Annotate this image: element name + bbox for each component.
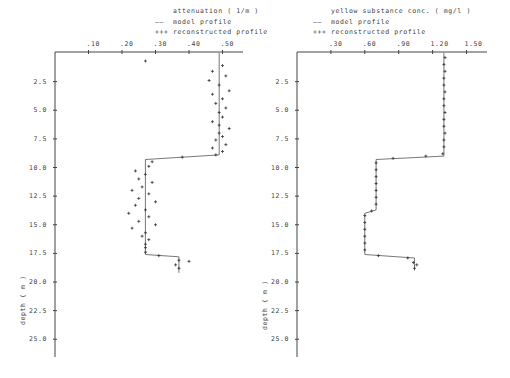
data-point [375, 189, 378, 192]
reconstructed-profile-points [127, 60, 231, 270]
data-point [147, 192, 150, 195]
data-point [144, 246, 147, 249]
data-point [141, 235, 144, 238]
data-point [442, 97, 445, 100]
data-point [218, 132, 221, 135]
y-tick-label: 22.5 [29, 307, 47, 315]
y-tick-label: 10.0 [29, 164, 47, 172]
legend: attenuation ( 1/m )——model profile+++rec… [155, 7, 268, 36]
data-point [218, 84, 221, 87]
data-point [147, 238, 150, 241]
x-tick-label: .10 [87, 40, 101, 48]
data-point [157, 254, 160, 257]
legend-symbol: +++ [313, 28, 327, 36]
data-point [141, 185, 144, 188]
data-point [214, 153, 217, 156]
data-point [211, 120, 214, 123]
x-tick-label: 1.50 [465, 40, 483, 48]
y-tick-label: 7.5 [33, 135, 47, 143]
chart-title: attenuation ( 1/m ) [173, 7, 259, 15]
model-profile-line [365, 53, 444, 271]
data-point [131, 227, 134, 230]
y-tick-label: 2.5 [33, 78, 47, 86]
legend-label: reconstructed profile [331, 28, 426, 36]
x-tick-label: .30 [154, 40, 168, 48]
x-tick-label: .60 [363, 40, 377, 48]
data-point [370, 210, 373, 213]
legend-symbol: —— [155, 18, 164, 26]
data-point [144, 231, 147, 234]
data-point [218, 124, 221, 127]
y-tick-label: 17.5 [29, 249, 47, 257]
data-point [151, 160, 154, 163]
y-tick-label: 22.5 [271, 307, 289, 315]
data-point [154, 223, 157, 226]
data-point [154, 200, 157, 203]
data-point [442, 125, 445, 128]
x-tick-label: .50 [221, 40, 235, 48]
data-point [147, 165, 150, 168]
data-point [375, 161, 378, 164]
data-point [211, 147, 214, 150]
data-point [147, 215, 150, 218]
data-point [144, 208, 147, 211]
data-point [211, 70, 214, 73]
data-point [442, 77, 445, 80]
y-tick-label: 17.5 [271, 249, 289, 257]
data-point [406, 256, 409, 259]
data-point [151, 181, 154, 184]
data-point [144, 173, 147, 176]
x-tick-label: .40 [187, 40, 201, 48]
attenuation-plot: attenuation ( 1/m )——model profile+++rec… [19, 7, 268, 357]
data-point [221, 150, 224, 153]
data-point [442, 118, 445, 121]
data-point [363, 221, 366, 224]
reconstructed-profile-points [363, 56, 446, 270]
figure-canvas: attenuation ( 1/m )——model profile+++rec… [0, 0, 510, 378]
data-point [442, 139, 445, 142]
data-point [144, 243, 147, 246]
data-point [228, 127, 231, 130]
data-point [214, 139, 217, 142]
data-point [442, 145, 445, 148]
data-point [224, 143, 227, 146]
legend-label: model profile [331, 18, 390, 26]
data-point [221, 64, 224, 67]
data-point [415, 263, 418, 266]
data-point [188, 260, 191, 263]
legend-symbol: —— [313, 18, 322, 26]
y-axis-label: depth ( m ) [261, 280, 269, 330]
data-point [221, 97, 224, 100]
x-tick-label: .20 [120, 40, 134, 48]
legend-label: model profile [173, 18, 232, 26]
data-point [218, 111, 221, 114]
x-tick-label: 1.20 [431, 40, 449, 48]
data-point [375, 203, 378, 206]
data-point [363, 242, 366, 245]
data-point [413, 267, 416, 270]
y-axis-label: depth ( m ) [19, 275, 27, 325]
y-tick-label: 12.5 [271, 192, 289, 200]
data-point [224, 106, 227, 109]
data-point [363, 214, 366, 217]
x-tick-label: .30 [329, 40, 343, 48]
data-point [442, 104, 445, 107]
data-point [442, 63, 445, 66]
y-tick-label: 5.0 [33, 106, 47, 114]
data-point [181, 156, 184, 159]
data-point [377, 254, 380, 257]
data-point [363, 235, 366, 238]
data-point [131, 189, 134, 192]
yellow-substance-plot: yellow substance conc. ( mg/l )——model p… [261, 7, 487, 357]
data-point [137, 177, 140, 180]
data-point [134, 204, 137, 207]
data-point [221, 116, 224, 119]
data-point [375, 196, 378, 199]
data-point [375, 175, 378, 178]
y-tick-label: 7.5 [275, 135, 289, 143]
y-tick-label: 5.0 [275, 106, 289, 114]
y-tick-label: 25.0 [271, 335, 289, 343]
data-point [375, 168, 378, 171]
data-point [174, 263, 177, 266]
legend-label: reconstructed profile [173, 28, 268, 36]
